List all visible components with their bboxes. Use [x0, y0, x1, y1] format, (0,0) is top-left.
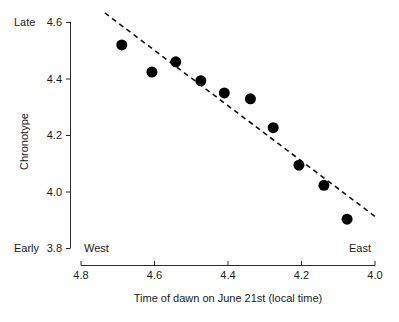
chart-figure: 4.64.44.24.03.8 4.84.64.44.24.0 Late Ear… [0, 0, 399, 322]
x-axis-ticks [81, 261, 375, 266]
x-axis-tick-label: 4.0 [350, 270, 399, 281]
y-axis-ticks [66, 23, 71, 249]
x-axis-right-label: East [349, 243, 371, 254]
x-axis-tick-label: 4.8 [56, 270, 106, 281]
y-axis-low-label: Early [14, 243, 39, 254]
data-points [116, 39, 352, 224]
data-point [116, 39, 127, 50]
x-axis-tick-label: 4.6 [130, 270, 180, 281]
y-axis-high-label: Late [14, 17, 35, 28]
data-point [342, 214, 353, 225]
data-point [268, 122, 279, 133]
y-axis-tick-label: 4.0 [14, 187, 62, 198]
trendline [105, 13, 378, 219]
data-point [146, 67, 157, 78]
x-axis-title: Time of dawn on June 21st (local time) [78, 293, 378, 304]
data-point [219, 87, 230, 98]
x-axis-tick-label: 4.4 [203, 270, 253, 281]
data-point [293, 160, 304, 171]
data-point [170, 56, 181, 67]
data-point [245, 93, 256, 104]
x-axis-tick-label: 4.2 [277, 270, 327, 281]
data-point [318, 180, 329, 191]
data-point [195, 75, 206, 86]
trendline-segment [105, 13, 378, 219]
x-axis-left-label: West [84, 243, 109, 254]
y-axis-tick-label: 4.4 [14, 74, 62, 85]
y-axis-title: Chronotype [19, 113, 30, 170]
